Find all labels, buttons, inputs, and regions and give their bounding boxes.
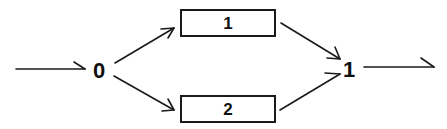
edge-start-to-top-box [115, 28, 174, 63]
top-box: 1 [181, 10, 275, 36]
input-arrow [16, 62, 85, 69]
output-arrow [364, 58, 434, 67]
edge-top-box-to-end [281, 23, 340, 59]
bottom-box: 2 [181, 96, 275, 122]
start-node-label: 0 [93, 58, 105, 83]
flow-diagram: 0 1 2 1 [0, 0, 447, 129]
edge-bottom-box-to-end [280, 73, 340, 110]
bottom-box-label: 2 [223, 100, 232, 119]
end-node-label: 1 [343, 57, 355, 82]
edge-start-to-bottom-box [114, 76, 174, 111]
top-box-label: 1 [223, 14, 232, 33]
